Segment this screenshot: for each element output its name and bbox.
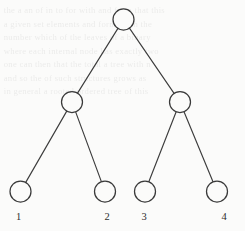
tree-node-leaf-4 bbox=[207, 181, 228, 202]
tree-node-leaf-3 bbox=[135, 181, 156, 202]
tree-edge-root-to-n-right bbox=[129, 28, 174, 93]
tree-node-leaf-2 bbox=[95, 181, 116, 202]
tree-edge-root-to-n-left bbox=[78, 28, 118, 93]
tree-nodes-group bbox=[10, 9, 228, 202]
tree-edge-n-left-to-leaf-2 bbox=[76, 112, 102, 182]
leaf-label-4: 4 bbox=[221, 211, 227, 222]
leaf-label-1: 1 bbox=[16, 211, 21, 222]
tree-node-n-right bbox=[170, 92, 191, 113]
leaf-labels-group: 1234 bbox=[16, 211, 228, 222]
binary-tree-svg: 1234 bbox=[0, 0, 245, 231]
binary-tree-figure: the a an of in to for with and from that… bbox=[0, 0, 245, 231]
tree-edge-n-left-to-leaf-1 bbox=[26, 111, 67, 182]
leaf-label-2: 2 bbox=[104, 211, 109, 222]
tree-node-n-left bbox=[62, 92, 83, 113]
tree-edge-n-right-to-leaf-3 bbox=[149, 112, 176, 182]
tree-node-leaf-1 bbox=[10, 181, 31, 202]
tree-edge-n-right-to-leaf-4 bbox=[184, 112, 213, 182]
leaf-label-3: 3 bbox=[141, 211, 146, 222]
tree-node-root bbox=[113, 9, 134, 30]
